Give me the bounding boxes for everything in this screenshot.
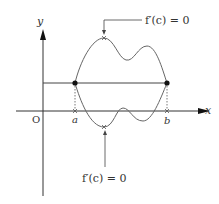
- point-a-label: a: [72, 114, 78, 125]
- lower-curve: [75, 83, 167, 127]
- top-callout-arrow-icon: [102, 30, 106, 35]
- origin-label: O: [32, 114, 40, 125]
- y-axis-label: y: [36, 15, 44, 28]
- x-axis-label: x: [205, 104, 212, 117]
- y-axis-arrow-icon: [40, 29, 46, 40]
- bottom-callout-arrow-icon: [103, 130, 107, 135]
- point-b-label: b: [164, 115, 170, 126]
- top-callout-label: f′(c) = 0: [145, 14, 190, 27]
- rolle-diagram: y x O a b f′(c) = 0 f′(c) = 0: [0, 0, 219, 204]
- x-axis: [16, 108, 210, 114]
- bottom-callout-label: f′(c) = 0: [82, 172, 127, 185]
- upper-curve: [75, 38, 167, 83]
- point-a-fa: [72, 80, 77, 85]
- top-callout-leader: [104, 20, 142, 32]
- point-b-fb: [164, 80, 169, 85]
- y-axis: [40, 29, 46, 196]
